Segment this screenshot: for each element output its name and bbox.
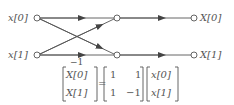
matrix-entry-00: 1 [110,70,116,80]
rhs-entry-1: x[1] [151,88,171,98]
equals-sign: = [98,79,106,89]
lhs-right-bracket [94,67,97,101]
matrix-entry-11: −1 [126,88,141,98]
node-mid-0 [114,15,120,21]
branch-gain-label: −1 [70,57,83,67]
lhs-entry-1: X[1] [66,88,87,98]
node-input-0 [34,15,40,21]
input-label-0: x[0] [8,13,28,23]
node-input-1 [34,52,40,58]
matrix-entry-10: 1 [110,88,116,98]
rhs-right-bracket [175,67,178,101]
lhs-entry-0: X[0] [66,70,87,80]
node-mid-1 [114,52,120,58]
matrix-entry-01: 1 [135,70,141,80]
output-label-1: X[1] [200,50,221,60]
butterfly-graph [0,0,234,105]
node-output-0 [191,15,197,21]
rhs-left-bracket [147,67,150,101]
input-label-1: x[1] [8,50,28,60]
node-output-1 [191,52,197,58]
output-label-0: X[0] [200,13,221,23]
rhs-entry-0: x[0] [151,70,171,80]
